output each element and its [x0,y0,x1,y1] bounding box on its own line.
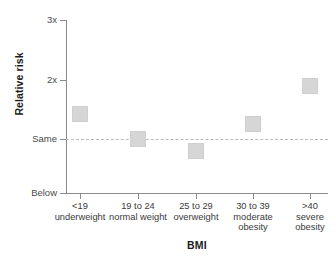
same-reference-line [66,139,328,140]
y-tick-mark-3x [60,20,66,21]
x-tick-mark-2 [138,194,139,199]
relative-risk-bmi-chart: Relative risk 3x 2x Same Below <19 under… [0,0,336,264]
x-axis-label-moderate-obesity-line1: 30 to 39 [236,201,270,211]
y-tick-label-same: Same [32,134,57,144]
x-axis-label-severe-obesity-line3: obesity [267,222,336,233]
x-axis-title: BMI [66,239,328,251]
x-tick-mark-1 [80,194,81,199]
y-axis-line [66,20,67,194]
x-axis-line [66,193,328,194]
y-tick-mark-below [60,193,66,194]
y-tick-label-below: Below [31,188,57,198]
data-point [130,131,146,147]
y-axis-title: Relative risk [13,29,25,139]
data-point [302,78,318,94]
x-tick-mark-5 [310,194,311,199]
x-axis-label-overweight-line1: 25 to 29 [179,201,213,211]
x-tick-mark-4 [253,194,254,199]
y-tick-label-2x: 2x [47,75,57,85]
data-point [188,143,204,159]
y-tick-label-3x: 3x [47,15,57,25]
y-tick-mark-2x [60,80,66,81]
x-tick-mark-3 [196,194,197,199]
x-axis-label-underweight-line1: <19 [72,201,88,211]
x-axis-label-severe-obesity-line1: >40 [302,201,318,211]
x-axis-label-severe-obesity: >40 severe obesity [267,201,336,233]
x-axis-label-normal-weight-line1: 19 to 24 [121,201,155,211]
data-point [72,106,88,122]
x-axis-label-severe-obesity-line2: severe [267,212,336,223]
data-point [245,116,261,132]
